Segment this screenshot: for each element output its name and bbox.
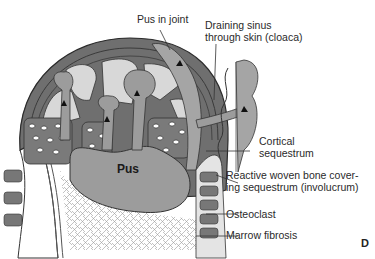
label-cortical-line2: sequestrum <box>259 148 314 160</box>
label-pus: Pus <box>117 162 139 176</box>
label-draining-sinus-line2: through skin (cloaca) <box>205 32 302 44</box>
label-cortical-line1: Cortical <box>259 136 295 148</box>
label-marrow-fibrosis: Marrow fibrosis <box>226 230 297 242</box>
label-involucrum-line1: Reactive woven bone cover- <box>226 170 359 182</box>
panel-letter: D <box>361 237 369 249</box>
label-draining-sinus-line1: Draining sinus <box>205 20 272 32</box>
osteomyelitis-diagram: Pus in joint Draining sinus through skin… <box>0 0 375 259</box>
bone-illustration <box>0 0 375 259</box>
label-involucrum-line2: ing sequestrum (involucrum) <box>226 182 358 194</box>
label-pus-in-joint: Pus in joint <box>137 14 188 26</box>
label-osteoclast: Osteoclast <box>226 209 276 221</box>
